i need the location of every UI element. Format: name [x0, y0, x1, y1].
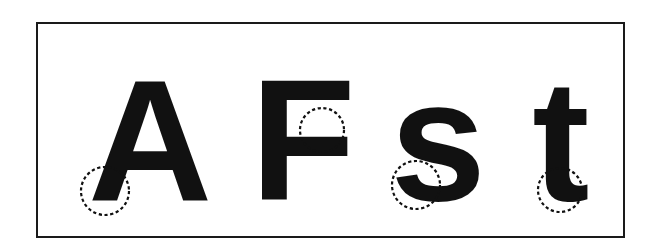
- figure-root: A F s t Letterform terminal features: [0, 0, 652, 251]
- figure-frame-border: [36, 22, 625, 238]
- figure-title: Letterform terminal features: [0, 0, 1, 1]
